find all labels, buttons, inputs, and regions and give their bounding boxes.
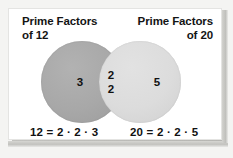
intersection-factor-top: 2 <box>93 68 129 82</box>
equation-left: 12 = 2 · 2 · 3 <box>30 126 98 138</box>
venn-region-intersection-label: 2 2 <box>93 68 129 96</box>
venn-region-right-only-label: 5 <box>139 75 175 89</box>
intersection-factor-bottom: 2 <box>93 82 129 96</box>
equation-right: 20 = 2 · 2 · 5 <box>130 126 198 138</box>
venn-diagram-figure: Prime Factors of 12 Prime Factors of 20 … <box>0 0 233 158</box>
